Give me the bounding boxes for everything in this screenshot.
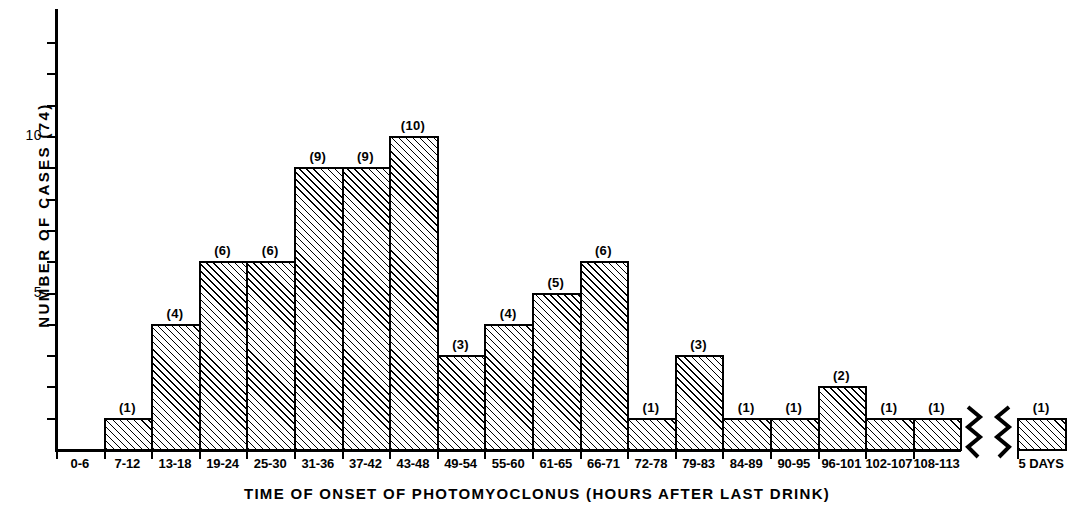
- histogram-bar: [675, 355, 725, 451]
- bar-value-label: (1): [104, 400, 152, 415]
- bar-value-label: (6): [246, 243, 294, 258]
- bar-value-label: (10): [389, 118, 437, 133]
- y-axis-tick-label: 10: [12, 127, 42, 143]
- y-axis-tick: [47, 42, 55, 44]
- bar-value-label: (1): [1017, 400, 1065, 415]
- histogram-bar: [484, 324, 534, 451]
- bar-value-label: (1): [627, 400, 675, 415]
- bar-value-label: (5): [532, 275, 580, 290]
- histogram-bar: [437, 355, 487, 451]
- bar-value-label: (6): [199, 243, 247, 258]
- bar-value-label: (2): [818, 368, 866, 383]
- histogram-bar: [389, 136, 439, 451]
- histogram-bar: [913, 418, 963, 451]
- x-axis-tick-label: 5 DAYS: [1011, 456, 1071, 471]
- x-axis-title: TIME OF ONSET OF PHOTOMYOCLONUS (HOURS A…: [0, 485, 1074, 502]
- y-axis-title: NUMBER OF CASES (74): [33, 50, 55, 380]
- histogram-bar: [246, 261, 296, 451]
- histogram-bar: [770, 418, 820, 451]
- bar-value-label: (3): [437, 337, 485, 352]
- histogram-bar: [294, 167, 344, 451]
- histogram-bar: [199, 261, 249, 451]
- y-axis-tick-label: 5: [12, 284, 42, 300]
- histogram-bar: [865, 418, 915, 451]
- histogram-bar: [342, 167, 392, 451]
- y-axis-tick: [47, 386, 55, 388]
- y-axis-tick: [47, 293, 55, 295]
- bar-value-label: (1): [770, 400, 818, 415]
- histogram-bar: [1017, 418, 1067, 451]
- y-axis-tick: [47, 230, 55, 232]
- axis-break-zigzag-right: [989, 405, 1015, 461]
- bar-value-label: (1): [865, 400, 913, 415]
- bar-value-label: (1): [722, 400, 770, 415]
- y-axis-tick: [47, 324, 55, 326]
- bar-value-label: (4): [484, 306, 532, 321]
- x-axis-tick-label: 108-113: [907, 456, 967, 471]
- bar-value-label: (4): [151, 306, 199, 321]
- bar-value-label: (6): [580, 243, 628, 258]
- histogram-bar: [532, 293, 582, 452]
- bar-value-label: (9): [342, 149, 390, 164]
- bar-value-label: (9): [294, 149, 342, 164]
- y-axis-tick: [47, 199, 55, 201]
- y-axis-line: [55, 9, 58, 451]
- histogram-bar: [580, 261, 630, 451]
- y-axis-tick: [47, 261, 55, 263]
- histogram-bar: [722, 418, 772, 451]
- y-axis-tick: [47, 73, 55, 75]
- y-axis-tick: [47, 105, 55, 107]
- axis-break-zigzag-left: [962, 405, 988, 461]
- y-axis-tick: [47, 167, 55, 169]
- histogram-bar: [104, 418, 154, 451]
- histogram-bar: [151, 324, 201, 451]
- y-axis-tick: [47, 355, 55, 357]
- bar-value-label: (1): [913, 400, 961, 415]
- y-axis-tick: [47, 418, 55, 420]
- histogram-figure: NUMBER OF CASES (74) 510 (1)(4)(6)(6)(9)…: [0, 0, 1074, 516]
- histogram-bar: [627, 418, 677, 451]
- y-axis-tick: [47, 136, 55, 138]
- bar-value-label: (3): [675, 337, 723, 352]
- histogram-bar: [818, 386, 868, 451]
